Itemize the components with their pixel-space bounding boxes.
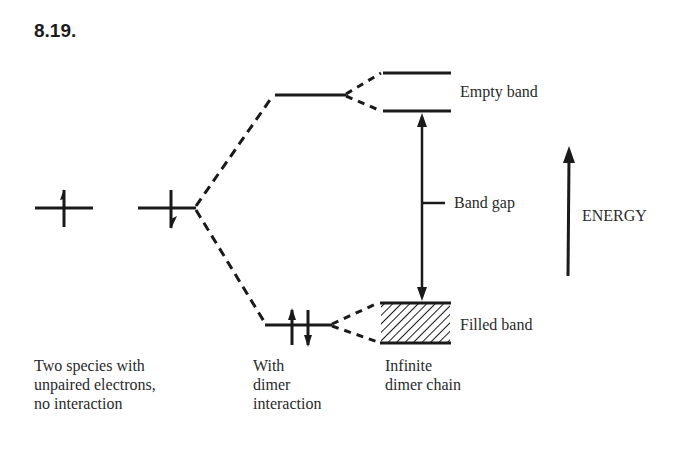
filled-band-label: Filled band xyxy=(460,315,532,334)
empty-band xyxy=(383,73,451,111)
isolated-level-2 xyxy=(138,190,196,229)
energy-label: ENERGY xyxy=(582,206,647,225)
band-gap-label: Band gap xyxy=(454,193,515,212)
caption-infinite-chain: Infinite dimer chain xyxy=(385,356,461,394)
isolated-level-1 xyxy=(35,189,93,227)
energy-arrow-icon xyxy=(563,146,575,276)
empty-band-label: Empty band xyxy=(460,82,538,101)
filled-band xyxy=(380,303,451,343)
dimer-bonding-level xyxy=(265,308,332,347)
band-connectors xyxy=(332,73,381,342)
caption-no-interaction: Two species with unpaired electrons, no … xyxy=(34,356,156,413)
electron-pair-icon xyxy=(288,308,312,347)
caption-dimer-interaction: With dimer interaction xyxy=(253,356,321,413)
dimer-connectors xyxy=(196,97,272,323)
band-gap-arrow xyxy=(417,113,445,301)
